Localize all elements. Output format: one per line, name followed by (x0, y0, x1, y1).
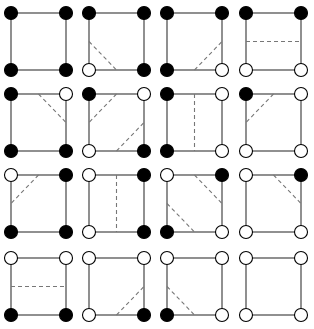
case-cell-10 (161, 169, 229, 239)
cell-square (246, 175, 301, 232)
case-cell-11 (240, 169, 308, 239)
cell-square (89, 258, 144, 315)
filled-vertex-bl (5, 64, 18, 77)
filled-vertex-tr (295, 169, 308, 182)
filled-vertex-bl (161, 309, 174, 322)
cell-square (167, 258, 222, 315)
case-cell-8 (5, 169, 73, 239)
case-cell-14 (161, 252, 229, 322)
case-cell-1 (83, 7, 151, 77)
cell-square (246, 94, 301, 151)
empty-vertex-tr (216, 252, 229, 265)
empty-vertex-bl (83, 226, 96, 239)
case-cell-0 (5, 7, 73, 77)
empty-vertex-br (295, 226, 308, 239)
case-cell-4 (5, 88, 73, 158)
filled-vertex-bl (161, 226, 174, 239)
cell-square (11, 94, 66, 151)
case-cell-5 (83, 88, 151, 158)
cell-square (89, 94, 144, 151)
cell-square (11, 175, 66, 232)
cell-square (167, 175, 222, 232)
empty-vertex-tl (5, 252, 18, 265)
case-cell-15 (240, 252, 308, 322)
case-cell-6 (161, 88, 229, 158)
case-cell-9 (83, 169, 151, 239)
empty-vertex-tl (161, 252, 174, 265)
filled-vertex-bl (5, 226, 18, 239)
filled-vertex-br (60, 64, 73, 77)
cell-square (246, 258, 301, 315)
filled-vertex-bl (161, 145, 174, 158)
filled-vertex-tl (5, 7, 18, 20)
filled-vertex-tl (83, 88, 96, 101)
empty-vertex-tl (5, 169, 18, 182)
empty-vertex-br (295, 145, 308, 158)
filled-vertex-tr (295, 7, 308, 20)
empty-vertex-tl (240, 252, 253, 265)
empty-vertex-tr (295, 88, 308, 101)
empty-vertex-bl (83, 309, 96, 322)
filled-vertex-br (138, 145, 151, 158)
filled-vertex-tr (138, 169, 151, 182)
empty-vertex-bl (240, 226, 253, 239)
filled-vertex-br (138, 226, 151, 239)
empty-vertex-bl (240, 309, 253, 322)
filled-vertex-br (60, 309, 73, 322)
filled-vertex-tr (216, 169, 229, 182)
empty-vertex-tl (83, 252, 96, 265)
empty-vertex-bl (240, 64, 253, 77)
filled-vertex-tr (138, 7, 151, 20)
case-cell-3 (240, 7, 308, 77)
filled-vertex-br (138, 64, 151, 77)
empty-vertex-bl (240, 145, 253, 158)
filled-vertex-br (138, 309, 151, 322)
filled-vertex-br (60, 145, 73, 158)
empty-vertex-tr (216, 88, 229, 101)
filled-vertex-bl (5, 145, 18, 158)
empty-vertex-tr (295, 252, 308, 265)
cell-square (11, 13, 66, 70)
filled-vertex-tl (240, 88, 253, 101)
marching-squares-diagram (0, 0, 314, 329)
empty-vertex-br (216, 145, 229, 158)
empty-vertex-tl (161, 169, 174, 182)
empty-vertex-bl (83, 64, 96, 77)
empty-vertex-tl (83, 169, 96, 182)
empty-vertex-tr (138, 252, 151, 265)
filled-vertex-tr (216, 7, 229, 20)
filled-vertex-tr (60, 169, 73, 182)
case-cell-12 (5, 252, 73, 322)
empty-vertex-tl (240, 169, 253, 182)
empty-vertex-tr (138, 88, 151, 101)
case-cell-2 (161, 7, 229, 77)
empty-vertex-br (295, 309, 308, 322)
empty-vertex-br (295, 64, 308, 77)
empty-vertex-bl (83, 145, 96, 158)
filled-vertex-bl (161, 64, 174, 77)
empty-vertex-br (216, 64, 229, 77)
filled-vertex-tl (83, 7, 96, 20)
case-cell-13 (83, 252, 151, 322)
filled-vertex-tl (240, 7, 253, 20)
filled-vertex-tl (161, 88, 174, 101)
empty-vertex-br (216, 226, 229, 239)
filled-vertex-bl (5, 309, 18, 322)
empty-vertex-tr (60, 252, 73, 265)
filled-vertex-tl (161, 7, 174, 20)
case-cell-7 (240, 88, 308, 158)
filled-vertex-tl (5, 88, 18, 101)
filled-vertex-tr (60, 7, 73, 20)
cell-square (167, 13, 222, 70)
empty-vertex-tr (60, 88, 73, 101)
filled-vertex-br (60, 226, 73, 239)
empty-vertex-br (216, 309, 229, 322)
cell-square (89, 13, 144, 70)
